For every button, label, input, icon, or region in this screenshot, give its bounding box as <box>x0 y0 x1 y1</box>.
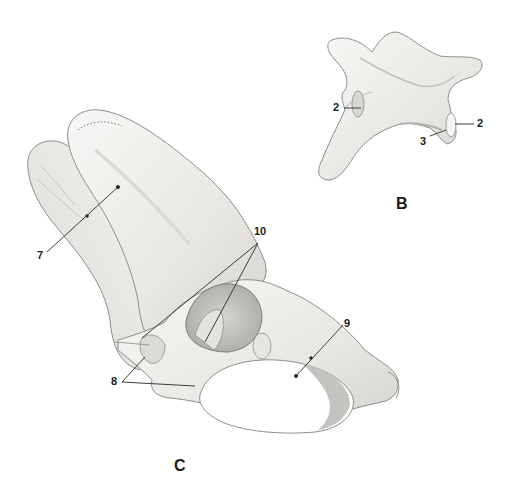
label-c-9: 9 <box>344 318 350 329</box>
label-c-7: 7 <box>37 250 43 261</box>
illustration-canvas <box>0 0 511 496</box>
anatomical-illustration: 2 2 3 B 7 10 9 8 C <box>0 0 511 496</box>
vertebra-figure-b <box>319 32 482 180</box>
label-b-3: 3 <box>420 136 426 147</box>
label-b-2-left: 2 <box>333 102 339 113</box>
figure-letter-c: C <box>174 458 186 474</box>
label-b-2-right: 2 <box>477 118 483 129</box>
label-c-8: 8 <box>111 376 117 387</box>
figure-letter-b: B <box>396 196 408 212</box>
label-c-10: 10 <box>254 226 266 237</box>
